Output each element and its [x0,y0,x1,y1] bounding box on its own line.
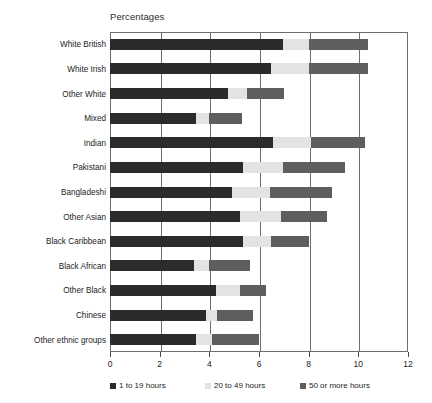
bar-row [110,211,408,222]
category-label: White British [2,40,106,49]
bar-row [110,285,408,296]
bar-segment [281,211,327,222]
category-label: White Irish [2,64,106,73]
category-label: Black Caribbean [2,237,106,246]
bar-segment [232,187,270,198]
category-label: Indian [2,138,106,147]
legend-item[interactable]: 20 to 49 hours [205,381,265,390]
category-label: Mixed [2,114,106,123]
category-label: Chinese [2,311,106,320]
bar-row [110,260,408,271]
bar-segment [196,334,212,345]
bar-segment [243,162,283,173]
legend-label: 20 to 49 hours [214,381,265,390]
legend-label: 1 to 19 hours [119,381,166,390]
bar-segment [209,260,250,271]
x-tick-mark [358,352,359,357]
x-tick-mark [259,352,260,357]
bar-segment [196,113,210,124]
bars-layer [110,32,408,352]
bar-row [110,39,408,50]
bar-segment [273,137,311,148]
bar-row [110,236,408,247]
chart-legend: 1 to 19 hours20 to 49 hours50 or more ho… [110,381,410,395]
bar-segment [110,211,240,222]
chart-title: Percentages [110,11,164,22]
bar-segment [110,88,228,99]
x-tick-mark [408,352,409,357]
bar-segment [247,88,284,99]
bar-segment [270,187,332,198]
category-axis-labels: White BritishWhite IrishOther WhiteMixed… [0,32,106,352]
bar-segment [228,88,247,99]
bar-segment [309,39,369,50]
bar-row [110,63,408,74]
legend-label: 50 or more hours [309,381,370,390]
bar-segment [271,236,308,247]
bar-row [110,334,408,345]
bar-segment [110,162,243,173]
bar-segment [311,137,364,148]
bar-segment [110,334,196,345]
category-label: Other Black [2,286,106,295]
category-label: Other Asian [2,212,106,221]
bar-segment [206,310,217,321]
x-tick-label: 4 [207,359,212,369]
category-label: Pakistani [2,163,106,172]
bar-segment [271,63,308,74]
bar-row [110,88,408,99]
legend-item[interactable]: 1 to 19 hours [110,381,166,390]
bar-segment [243,236,272,247]
bar-segment [209,113,241,124]
bar-segment [216,285,241,296]
x-tick-mark [110,352,111,357]
bar-row [110,310,408,321]
x-tick-label: 2 [157,359,162,369]
legend-swatch-icon [300,383,306,389]
bar-segment [194,260,209,271]
x-tick-label: 12 [403,359,412,369]
legend-swatch-icon [110,383,116,389]
bar-segment [110,137,273,148]
bar-segment [110,285,216,296]
x-tick-mark [309,352,310,357]
x-tick-label: 0 [108,359,113,369]
legend-item[interactable]: 50 or more hours [300,381,370,390]
bar-segment [110,39,283,50]
bar-segment [110,63,271,74]
bar-row [110,162,408,173]
bar-row [110,187,408,198]
bar-row [110,113,408,124]
x-tick-mark [209,352,210,357]
bar-segment [212,334,259,345]
legend-swatch-icon [205,383,211,389]
category-label: Other White [2,89,106,98]
category-label: Other ethnic groups [2,335,106,344]
bar-segment [240,211,281,222]
bar-row [110,137,408,148]
bar-segment [110,113,196,124]
x-axis: 024681012 [110,352,408,376]
bar-segment [240,285,266,296]
stacked-bar-chart: Percentages White BritishWhite IrishOthe… [0,0,432,403]
bar-segment [283,162,345,173]
bar-segment [110,236,243,247]
category-label: Black African [2,261,106,270]
bar-segment [283,39,309,50]
bar-segment [309,63,369,74]
bar-segment [217,310,253,321]
category-label: Bangladeshi [2,188,106,197]
x-tick-label: 6 [257,359,262,369]
bar-segment [110,310,206,321]
x-tick-label: 10 [354,359,363,369]
bar-segment [110,187,232,198]
x-tick-mark [160,352,161,357]
x-tick-label: 8 [306,359,311,369]
bar-segment [110,260,194,271]
